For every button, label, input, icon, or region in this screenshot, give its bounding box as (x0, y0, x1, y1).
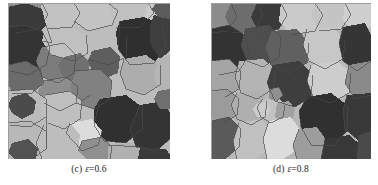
micrograph-panel-d (211, 3, 371, 159)
micrograph-panel-c (8, 3, 170, 159)
caption-panel-c: (c)ε=0.6 (8, 164, 170, 174)
caption-panel-d: (d)ε=0.8 (211, 164, 371, 174)
caption-d-value: =0.8 (291, 164, 309, 174)
caption-c-value: =0.6 (89, 164, 107, 174)
caption-d-tag: (d) (273, 164, 284, 174)
figure-container: (c)ε=0.6 (d)ε=0.8 (0, 0, 378, 185)
micrograph-d-svg (211, 3, 371, 159)
micrograph-c-svg (8, 3, 170, 159)
caption-c-tag: (c) (71, 164, 82, 174)
